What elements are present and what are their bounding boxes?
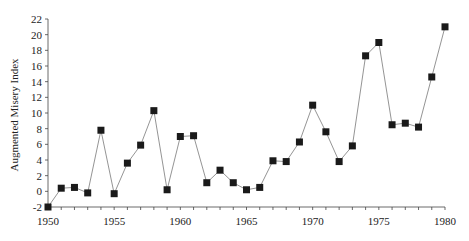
- series-line: [48, 27, 445, 207]
- y-tick-label: -2: [33, 201, 42, 213]
- data-point-marker: [362, 52, 369, 59]
- data-point-marker: [269, 157, 276, 164]
- y-tick-label: 0: [37, 185, 43, 197]
- y-tick-label: 12: [31, 91, 42, 103]
- data-point-marker: [58, 185, 65, 192]
- y-tick-label: 14: [31, 76, 43, 88]
- data-point-marker: [203, 179, 210, 186]
- x-tick-label: 1955: [103, 215, 126, 227]
- line-chart: -20246810121416182022 195019551960196519…: [0, 0, 469, 241]
- data-point-marker: [137, 142, 144, 149]
- data-point-marker: [336, 158, 343, 165]
- x-tick-label: 1965: [236, 215, 259, 227]
- x-tick-label: 1970: [302, 215, 325, 227]
- y-axis: -20246810121416182022: [31, 13, 48, 213]
- data-point-marker: [71, 184, 78, 191]
- data-point-marker: [389, 121, 396, 128]
- data-series: [45, 23, 449, 210]
- data-point-marker: [256, 184, 263, 191]
- x-tick-label: 1950: [37, 215, 60, 227]
- data-point-marker: [296, 138, 303, 145]
- data-point-marker: [415, 124, 422, 131]
- x-tick-label: 1960: [169, 215, 192, 227]
- x-tick-label: 1980: [434, 215, 457, 227]
- y-tick-label: 10: [31, 107, 43, 119]
- data-point-marker: [402, 120, 409, 127]
- data-point-marker: [45, 204, 52, 211]
- y-tick-label: 20: [31, 29, 43, 41]
- data-point-marker: [230, 179, 237, 186]
- x-tick-label: 1975: [368, 215, 391, 227]
- data-point-marker: [164, 186, 171, 193]
- data-point-marker: [84, 189, 91, 196]
- data-point-marker: [428, 73, 435, 80]
- data-point-marker: [309, 102, 316, 109]
- y-tick-label: 8: [37, 123, 43, 135]
- y-tick-label: 22: [31, 13, 42, 25]
- data-point-marker: [442, 23, 449, 30]
- x-axis: 1950195519601965197019751980: [37, 207, 457, 227]
- data-point-marker: [124, 160, 131, 167]
- y-tick-label: 16: [31, 60, 43, 72]
- data-point-marker: [217, 167, 224, 174]
- data-point-marker: [349, 142, 356, 149]
- data-point-marker: [375, 39, 382, 46]
- y-tick-label: 6: [37, 138, 43, 150]
- y-tick-label: 4: [37, 154, 43, 166]
- data-point-marker: [283, 158, 290, 165]
- data-point-marker: [322, 128, 329, 135]
- y-tick-label: 2: [37, 170, 43, 182]
- data-point-marker: [243, 186, 250, 193]
- data-point-marker: [97, 127, 104, 134]
- data-point-marker: [150, 107, 157, 114]
- data-point-marker: [190, 132, 197, 139]
- y-axis-title: Augmented Misery Index: [8, 58, 20, 172]
- data-point-marker: [111, 190, 118, 197]
- data-point-marker: [177, 133, 184, 140]
- y-tick-label: 18: [31, 44, 43, 56]
